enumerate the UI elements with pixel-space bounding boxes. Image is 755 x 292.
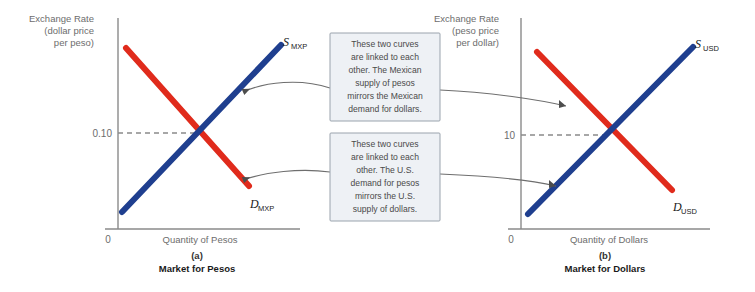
callout-top-line-5: mirrors the Mexican (347, 91, 423, 101)
panel-a-letter: (a) (191, 250, 203, 261)
leader-bottom-right (440, 174, 556, 186)
callout-bottom-line-4: demand for pesos (351, 178, 420, 188)
panel-b-x-axis-label: Quantity of Dollars (570, 234, 648, 245)
panel-a-supply-label: S MXP (283, 35, 307, 51)
panel-b-supply-label-sub: USD (703, 44, 719, 53)
panel-b-demand-label: D USD (672, 200, 697, 216)
panel-b-letter: (b) (599, 250, 611, 261)
callout-box-top: These two curves are linked to each othe… (330, 33, 440, 121)
panel-b-supply-label: S USD (695, 37, 719, 53)
panel-b-y-axis-label-line1: Exchange Rate (434, 13, 499, 24)
panel-a: Exchange Rate (dollar price per peso) 0.… (29, 13, 307, 274)
panel-a-y-axis-label-line3: per peso) (54, 37, 94, 48)
callout-bottom-line-2: are linked to each (351, 152, 419, 162)
panel-a-y-axis-label-line2: (dollar price (44, 25, 94, 36)
panel-a-demand-label: D MXP (249, 197, 274, 213)
panel-b-origin-label: 0 (508, 234, 514, 245)
panel-a-tick-label: 0.10 (93, 128, 113, 139)
panel-b-title: Market for Dollars (565, 263, 646, 274)
exchange-rate-figure: Exchange Rate (dollar price per peso) 0.… (0, 0, 755, 292)
callout-bottom-line-6: supply of dollars. (353, 204, 418, 214)
panel-a-supply-label-sub: MXP (291, 42, 307, 51)
callout-top-line-6: demand for dollars. (348, 104, 422, 114)
panel-b-y-axis-label-line3: per dollar) (456, 37, 499, 48)
callout-top-line-1: These two curves (351, 39, 418, 49)
callout-box-bottom: These two curves are linked to each othe… (330, 133, 440, 221)
panel-a-demand-curve (126, 48, 249, 186)
callout-top-line-2: are linked to each (351, 52, 419, 62)
leader-bottom-left (243, 170, 330, 180)
callout-bottom-line-1: These two curves (351, 139, 418, 149)
panel-a-origin-label: 0 (105, 234, 111, 245)
leader-top-right (440, 90, 566, 106)
panel-b-demand-label-sub: USD (681, 207, 697, 216)
panel-b-demand-curve (537, 52, 672, 190)
callout-top-line-4: supply of pesos (355, 78, 415, 88)
figure-svg: Exchange Rate (dollar price per peso) 0.… (0, 0, 755, 292)
leader-top-left (243, 82, 330, 92)
callout-bottom-line-5: mirrors the U.S. (355, 191, 415, 201)
panel-a-title: Market for Pesos (159, 263, 236, 274)
panel-a-y-axis-label-line1: Exchange Rate (29, 13, 94, 24)
panel-b-supply-label-main: S (695, 37, 701, 51)
panel-b-tick-label: 10 (504, 130, 516, 141)
panel-b: Exchange Rate (peso price per dollar) 10… (434, 13, 719, 274)
callout-bottom-line-3: other. The U.S. (356, 165, 414, 175)
panel-a-supply-label-main: S (283, 35, 289, 49)
panel-b-y-axis-label-line2: (peso price (452, 25, 499, 36)
panel-a-x-axis-label: Quantity of Pesos (163, 234, 238, 245)
callout-top-line-3: other. The Mexican (349, 65, 422, 75)
leader-top-right-arrowhead (559, 100, 566, 108)
panel-a-demand-label-sub: MXP (258, 204, 274, 213)
